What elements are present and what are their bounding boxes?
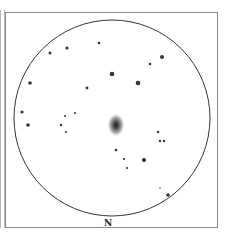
star-icon [28,81,32,85]
star-icon [142,158,146,162]
star-icon [74,112,76,114]
star-icon [110,72,115,77]
eyepiece-sketch [0,0,227,241]
star-icon [115,149,118,152]
star-icon [64,115,66,117]
star-field [20,42,169,197]
star-icon [60,124,62,126]
star-icon [65,46,68,49]
star-icon [159,140,161,142]
north-label: N [104,218,112,228]
star-icon [65,131,67,133]
star-icon [49,52,52,55]
star-icon [166,193,170,197]
star-icon [98,42,101,45]
star-icon [136,81,141,86]
star-icon [86,87,89,90]
star-icon [149,63,152,66]
star-icon [26,123,30,127]
star-icon [159,187,161,189]
star-icon [160,55,164,59]
star-icon [20,110,23,113]
star-icon [157,131,159,133]
star-icon [123,158,125,160]
star-icon [126,167,128,169]
galaxy-icon [107,113,125,137]
star-icon [163,140,165,142]
